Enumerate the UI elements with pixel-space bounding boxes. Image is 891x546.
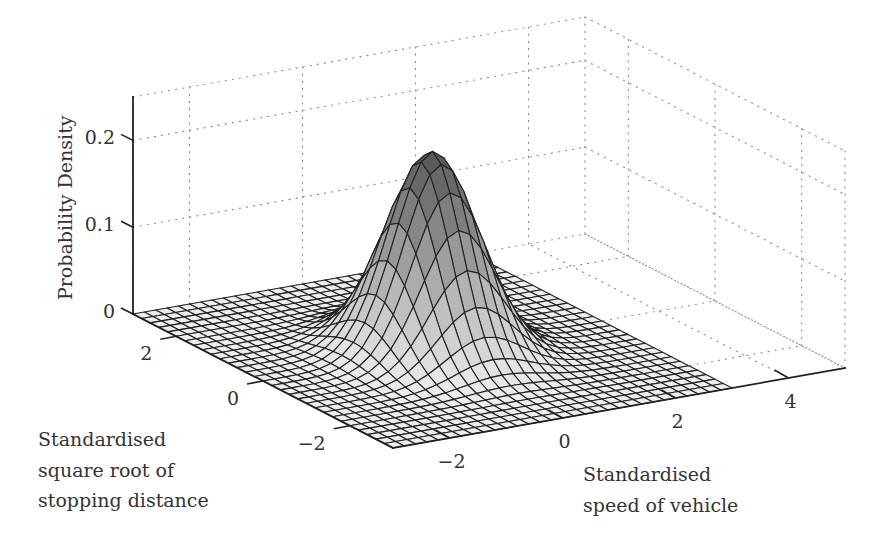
y-tick-label: 0 — [227, 387, 239, 409]
y-axis-title-line3: stopping distance — [38, 489, 209, 511]
y-tick-label: 2 — [140, 342, 152, 364]
y-tick-label: −2 — [298, 432, 326, 454]
z-tick-label: 0 — [103, 300, 115, 322]
y-axis-title-line2: square root of — [38, 459, 176, 481]
x-tick-label: 4 — [784, 390, 796, 412]
x-tick-label: 2 — [671, 410, 683, 432]
surface-plot: 00.10.2−202−2024 Probability Density Sta… — [0, 0, 891, 546]
z-axis-title: Probability Density — [54, 115, 76, 300]
z-tick-label: 0.1 — [85, 213, 115, 235]
y-axis-title: Standardised — [38, 428, 166, 450]
x-axis-title-line2: speed of vehicle — [583, 494, 738, 516]
x-tick-label: −2 — [437, 450, 465, 472]
x-axis-title: Standardised — [583, 463, 711, 485]
z-tick-label: 0.2 — [85, 126, 115, 148]
x-tick-label: 0 — [558, 430, 570, 452]
